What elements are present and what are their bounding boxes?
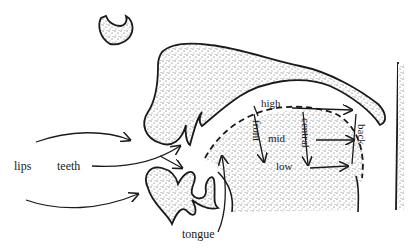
label-central: central: [300, 118, 311, 148]
lips-arrow-lower: [26, 194, 138, 208]
label-tongue: tongue: [182, 228, 215, 240]
label-lips: lips: [14, 160, 31, 172]
label-mid: mid: [268, 133, 285, 144]
label-front: front: [251, 120, 262, 141]
lower-lip: [146, 167, 218, 224]
label-high: high: [261, 98, 281, 109]
label-back: back: [356, 124, 367, 145]
nostril-shape: [99, 16, 132, 44]
teeth-arrow-lower: [160, 156, 182, 168]
teeth-arrow-upper: [92, 146, 180, 166]
lips-arrow-upper: [36, 133, 130, 142]
label-low: low: [276, 161, 293, 172]
label-teeth: teeth: [57, 160, 80, 172]
